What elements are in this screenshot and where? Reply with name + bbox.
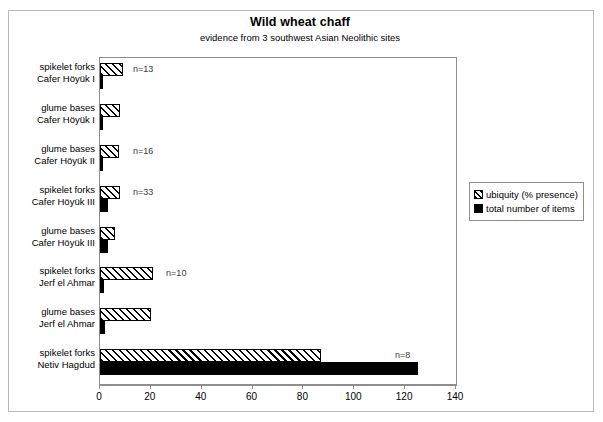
x-axis-tick-label: 20: [130, 391, 170, 402]
y-axis-label-line: glume bases: [7, 306, 95, 318]
y-axis-label-line: Cafer Höyük I: [7, 73, 95, 85]
title-block: Wild wheat chaff evidence from 3 southwe…: [120, 14, 480, 45]
x-axis-tick: [99, 384, 100, 389]
plot-area: n=13n=16n=33n=10n=8: [99, 57, 457, 386]
y-axis-label: spikelet forksJerf el Ahmar: [7, 265, 95, 289]
y-axis-label-line: glume bases: [7, 143, 95, 155]
sample-size-annotation: n=13: [133, 64, 153, 74]
y-axis-label-line: Netiv Hagdud: [7, 359, 95, 371]
legend-swatch-solid-icon: [474, 204, 483, 213]
x-axis-line: [99, 384, 455, 385]
legend-item: ubiquity (% presence): [474, 187, 578, 201]
bar-total-items: [100, 240, 108, 253]
chart-subtitle: evidence from 3 southwest Asian Neolithi…: [120, 31, 480, 45]
x-axis-tick: [404, 384, 405, 389]
y-axis-label-line: spikelet forks: [7, 184, 95, 196]
y-axis-label-line: Jerf el Ahmar: [7, 277, 95, 289]
y-axis-category-labels: spikelet forksCafer Höyük Iglume basesCa…: [4, 57, 95, 384]
bar-group: [100, 99, 456, 140]
bar-ubiquity: [100, 349, 321, 362]
y-axis-label-line: Cafer Höyük III: [7, 196, 95, 208]
x-axis-tick: [150, 384, 151, 389]
x-axis-tick-label: 140: [435, 391, 475, 402]
chart-figure: Wild wheat chaff evidence from 3 southwe…: [0, 0, 603, 422]
x-axis-tick-label: 60: [232, 391, 272, 402]
x-axis-tick-label: 0: [79, 391, 119, 402]
y-axis-label-line: spikelet forks: [7, 61, 95, 73]
bar-total-items: [100, 280, 104, 293]
bar-ubiquity: [100, 308, 151, 321]
legend-item-label: total number of items: [486, 203, 575, 214]
bar-ubiquity: [100, 227, 115, 240]
page-title: Wild wheat chaff: [120, 14, 480, 30]
sample-size-annotation: n=8: [395, 350, 410, 360]
y-axis-label-line: Cafer Höyük III: [7, 237, 95, 249]
bar-group: [100, 58, 456, 99]
chart-legend: ubiquity (% presence)total number of ite…: [469, 182, 584, 221]
x-axis-tick-label: 80: [282, 391, 322, 402]
bar-group: [100, 303, 456, 344]
legend-item: total number of items: [474, 201, 578, 215]
sample-size-annotation: n=10: [166, 268, 186, 278]
x-axis: 020406080100120140: [99, 384, 455, 408]
y-axis-label: spikelet forksCafer Höyük I: [7, 61, 95, 85]
x-axis-tick: [353, 384, 354, 389]
y-axis-label-line: Cafer Höyük II: [7, 155, 95, 167]
bar-ubiquity: [100, 63, 123, 76]
bar-total-items: [100, 321, 105, 334]
y-axis-label-line: Jerf el Ahmar: [7, 318, 95, 330]
y-axis-label-line: glume bases: [7, 225, 95, 237]
legend-item-label: ubiquity (% presence): [486, 189, 578, 200]
bar-group: [100, 140, 456, 181]
y-axis-label: glume basesCafer Höyük I: [7, 102, 95, 126]
x-axis-tick: [201, 384, 202, 389]
sample-size-annotation: n=33: [133, 187, 153, 197]
y-axis-label-line: glume bases: [7, 102, 95, 114]
x-axis-tick: [302, 384, 303, 389]
bar-total-items: [100, 199, 108, 212]
y-axis-label-line: spikelet forks: [7, 265, 95, 277]
bar-group: [100, 262, 456, 303]
x-axis-tick: [455, 384, 456, 389]
bar-group: [100, 222, 456, 263]
y-axis-label: glume basesJerf el Ahmar: [7, 306, 95, 330]
bar-ubiquity: [100, 186, 120, 199]
bar-total-items: [100, 362, 418, 375]
y-axis-label: glume basesCafer Höyük II: [7, 143, 95, 167]
bar-ubiquity: [100, 104, 120, 117]
bar-total-items: [100, 158, 103, 171]
bar-ubiquity: [100, 145, 119, 158]
y-axis-label-line: Cafer Höyük I: [7, 114, 95, 126]
y-axis-label: glume basesCafer Höyük III: [7, 225, 95, 249]
y-axis-label: spikelet forksNetiv Hagdud: [7, 347, 95, 371]
x-axis-tick-label: 40: [181, 391, 221, 402]
x-axis-tick-label: 120: [384, 391, 424, 402]
y-axis-label-line: spikelet forks: [7, 347, 95, 359]
bar-total-items: [100, 117, 103, 130]
x-axis-tick: [252, 384, 253, 389]
x-axis-tick-label: 100: [333, 391, 373, 402]
bar-ubiquity: [100, 267, 153, 280]
bar-group: [100, 181, 456, 222]
legend-swatch-hatched-icon: [474, 190, 483, 199]
bar-total-items: [100, 76, 103, 89]
y-axis-label: spikelet forksCafer Höyük III: [7, 184, 95, 208]
sample-size-annotation: n=16: [133, 146, 153, 156]
